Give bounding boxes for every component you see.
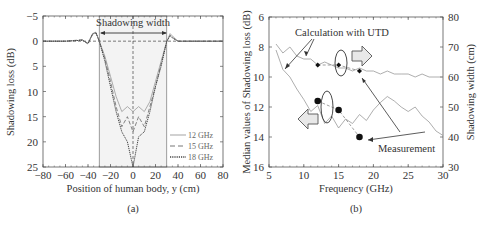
svg-text:−40: −40 [79,169,97,181]
svg-text:40: 40 [448,131,460,143]
caption-a: (a) [127,203,139,215]
svg-text:16: 16 [253,161,265,173]
legend-12ghz: 12 GHz [188,131,214,140]
measurement-point [356,134,363,141]
right-axis-arrow-icon [352,46,372,66]
svg-text:10: 10 [298,169,310,181]
legend: 12 GHz 15 GHz 18 GHz [170,131,214,162]
svg-text:−60: −60 [57,169,75,181]
group-ellipse-loss [321,91,333,123]
legend-18ghz: 18 GHz [188,153,214,162]
svg-text:14: 14 [253,131,265,143]
panel-a-chart: −80−60−40−20020406080−50510152025 Shadow… [5,10,229,215]
svg-text:20: 20 [27,136,39,148]
svg-text:60: 60 [195,169,207,181]
svg-text:15: 15 [27,111,39,123]
y-axis-title-left: Median values of Shadowing loss (dB) [241,10,253,174]
svg-text:70: 70 [448,41,460,53]
svg-text:25: 25 [403,169,415,181]
svg-text:8: 8 [259,41,265,53]
y-axis-title: Shadowing loss (dB) [5,47,17,136]
measurement-label: Measurement [378,143,435,154]
svg-text:10: 10 [27,86,39,98]
svg-text:20: 20 [368,169,380,181]
y-axis-title-right: Shadowing width (cm) [465,43,477,140]
svg-text:0: 0 [130,169,136,181]
x-axis-title: Frequency (GHz) [319,183,393,195]
svg-text:15: 15 [333,169,345,181]
svg-text:20: 20 [150,169,162,181]
svg-text:12: 12 [253,101,264,113]
figure: −80−60−40−20020406080−50510152025 Shadow… [0,0,483,225]
x-axis-title: Position of human body, y (cm) [67,183,200,195]
svg-text:80: 80 [448,11,460,23]
svg-text:80: 80 [218,169,230,181]
calculation-label: Calculation with UTD [295,27,389,38]
svg-text:30: 30 [448,161,460,173]
svg-text:0: 0 [33,35,39,47]
svg-text:60: 60 [448,71,460,83]
svg-text:5: 5 [33,60,39,72]
svg-text:6: 6 [259,11,265,23]
svg-text:10: 10 [253,71,265,83]
measurement-point [357,69,362,74]
svg-text:−5: −5 [26,10,38,22]
legend-15ghz: 15 GHz [188,142,214,151]
measurement-point [336,63,341,68]
caption-b: (b) [350,203,363,215]
left-axis-arrow-icon [298,109,318,129]
svg-text:40: 40 [173,169,185,181]
svg-text:−20: −20 [102,169,120,181]
group-ellipse-width [335,50,347,76]
measurement-point [335,107,342,114]
svg-text:5: 5 [266,169,272,181]
svg-text:25: 25 [27,161,39,173]
panel-b-chart: 510152025306810121416304050607080 Calcul… [241,10,477,215]
measurement-point [314,98,321,105]
svg-text:50: 50 [448,101,460,113]
shadowing-width-label: Shadowing width [96,17,171,28]
